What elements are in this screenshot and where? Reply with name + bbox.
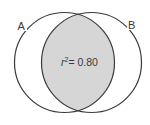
overlap-label-value: = 0.80 [68, 56, 98, 68]
set-label-b: B [128, 19, 135, 31]
venn-diagram: A B r2= 0.80 [0, 0, 150, 125]
set-label-a: A [18, 20, 26, 32]
